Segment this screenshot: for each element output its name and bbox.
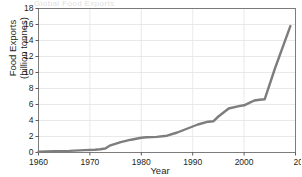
y-tick-label-2: 2 (20, 132, 34, 141)
gridlines-group (39, 9, 296, 153)
x-tick-label-2000: 2000 (229, 158, 259, 167)
y-tick-label-4: 4 (20, 116, 34, 125)
plot-area-svg (0, 0, 301, 177)
y-axis-title: Food Exports (billion tonnes) (7, 0, 31, 103)
plot-frame (39, 9, 296, 153)
x-axis-title: Year (120, 166, 200, 176)
food-exports-line-chart: Global Food Exports 024681012141618 1960… (0, 0, 301, 177)
x-tick-label-1960: 1960 (24, 158, 54, 167)
y-axis-title-line1: Food Exports (7, 0, 18, 103)
x-tick-label-1970: 1970 (75, 158, 105, 167)
y-tick-label-0: 0 (20, 148, 34, 157)
tick-marks-group (36, 9, 296, 156)
x-tick-label-201: 201 (294, 158, 302, 167)
y-axis-title-line2: (billion tonnes) (18, 0, 29, 103)
